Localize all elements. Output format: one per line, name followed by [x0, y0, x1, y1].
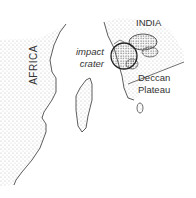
label-impact-crater: impact crater — [76, 46, 104, 70]
label-impact-crater-line1: impact — [76, 46, 104, 58]
island — [76, 78, 92, 132]
sri-lanka — [137, 103, 143, 113]
label-impact-crater-line2: crater — [76, 58, 104, 70]
map-drawing — [0, 0, 196, 198]
impact-crater-marker — [111, 43, 137, 69]
label-africa: AFRICA — [29, 45, 39, 85]
label-deccan-line2: Plateau — [138, 84, 170, 96]
label-deccan-line1: Deccan — [138, 72, 170, 84]
label-deccan-plateau: Deccan Plateau — [138, 72, 170, 96]
label-india: INDIA — [136, 18, 161, 28]
map: AFRICA INDIA impact crater Deccan Platea… — [0, 0, 196, 198]
